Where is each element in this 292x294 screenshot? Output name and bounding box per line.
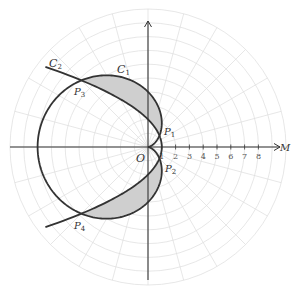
polar-diagram: 12345678 C2 C1 P3 P1 P2 P4 O M bbox=[0, 0, 292, 294]
shaded-region bbox=[81, 158, 161, 218]
axis-label-m: M bbox=[279, 142, 291, 153]
x-tick-label: 3 bbox=[187, 152, 192, 161]
x-tick-label: 5 bbox=[215, 152, 220, 161]
grid-radial bbox=[148, 147, 268, 216]
x-tick-label: 8 bbox=[256, 152, 261, 161]
point-label-p2: P2 bbox=[164, 163, 176, 176]
x-tick-label: 7 bbox=[242, 152, 247, 161]
point-label-p3: P3 bbox=[73, 86, 85, 99]
grid-radial bbox=[148, 49, 246, 147]
curve-label-c1: C1 bbox=[117, 63, 130, 77]
x-tick-label: 4 bbox=[201, 152, 206, 161]
origin-label: O bbox=[136, 152, 145, 165]
grid-radial bbox=[15, 111, 148, 147]
grid-radial bbox=[15, 147, 148, 183]
grid-radial bbox=[148, 147, 246, 245]
point-label-p4: P4 bbox=[73, 220, 86, 233]
shaded-region bbox=[81, 75, 161, 135]
x-tick-label: 6 bbox=[228, 152, 233, 161]
x-tick-label: 2 bbox=[173, 152, 178, 161]
